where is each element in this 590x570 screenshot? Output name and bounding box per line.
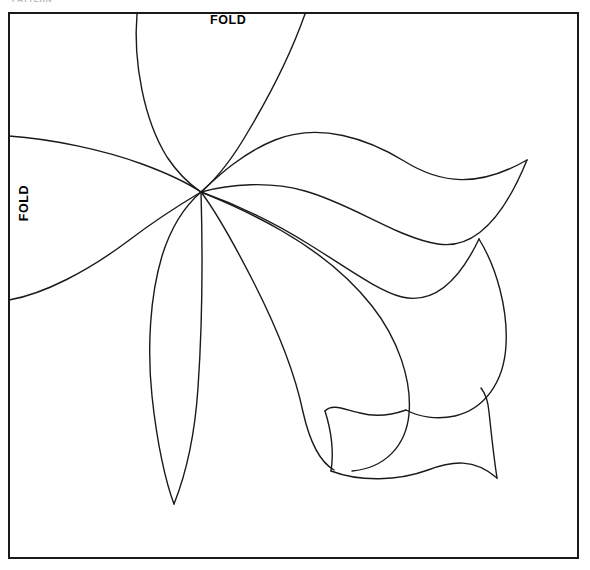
flower-outline-group [9,14,527,504]
fold-label-left: FOLD [17,184,31,222]
big-petal-right-lobe-path [406,239,506,418]
narrow-leaf-inner-edge-path [174,192,202,504]
pattern-border-box [9,13,578,558]
applique-pattern-drawing [0,0,590,570]
pattern-canvas: PATTERN FOLD FOLD [0,0,590,570]
big-petal-tail-path [481,388,497,478]
big-petal-lower-left-edge-path [325,411,332,471]
inner-petal-upper-edge-path [201,192,409,471]
right-petal-lower-edge-path [201,160,527,245]
top-petal-right-edge-path [201,14,305,192]
big-petal-notch-path [325,407,406,415]
narrow-leaf-outer-edge-path [150,192,201,504]
clipped-header-text: PATTERN [12,0,52,2]
lower-lobe-left-edge-path [201,192,334,470]
fold-label-top: FOLD [210,13,246,27]
big-petal-top-edge-path [201,192,479,298]
right-petal-upper-edge-path [201,132,527,192]
left-petal-lower-edge-path [9,192,201,300]
